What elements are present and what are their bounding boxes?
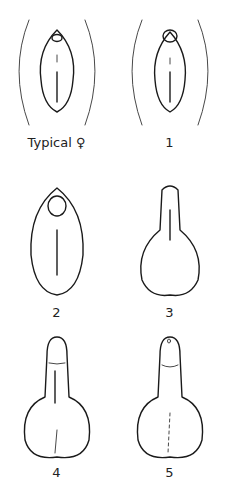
schematic-figure-typical	[7, 10, 107, 135]
panel-stage-3: 3	[113, 180, 226, 321]
panel-label: 5	[113, 465, 226, 481]
panel-label: 2	[0, 305, 113, 321]
schematic-figure-stage-1	[120, 10, 220, 135]
schematic-figure-stage-5	[120, 335, 220, 465]
panel-stage-4: 4	[0, 335, 113, 481]
panel-label: 1	[113, 135, 226, 151]
staged-diagram: Typical ♀ 1 2 3	[0, 0, 226, 503]
panel-label: Typical ♀	[0, 135, 113, 151]
panel-stage-2: 2	[0, 180, 113, 321]
panel-label: 4	[0, 465, 113, 481]
panel-label: 3	[113, 305, 226, 321]
panel-stage-1: 1	[113, 10, 226, 151]
panel-stage-5: 5	[113, 335, 226, 481]
schematic-figure-stage-4	[7, 335, 107, 465]
schematic-figure-stage-2	[7, 180, 107, 305]
schematic-figure-stage-3	[120, 180, 220, 305]
panel-typical: Typical ♀	[0, 10, 113, 151]
